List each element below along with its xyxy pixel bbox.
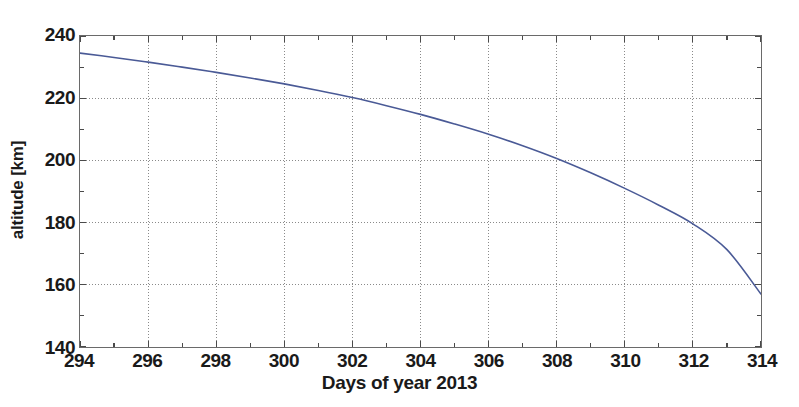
xtick-label: 314: [732, 350, 792, 372]
xtick-label: 300: [254, 350, 314, 372]
y-axis-title: altitude [km]: [8, 110, 28, 270]
xtick-label: 298: [186, 350, 246, 372]
ytick-label: 220: [15, 87, 75, 109]
chart-figure: 240 220 200 180 160 140 294 296 298 300 …: [0, 0, 799, 407]
xtick-label: 304: [391, 350, 451, 372]
xtick-label: 294: [49, 350, 109, 372]
x-axis-title: Days of year 2013: [0, 372, 799, 394]
xtick-label: 302: [322, 350, 382, 372]
data-series-altitude: [80, 36, 761, 347]
plot-area: [79, 35, 762, 348]
ytick-label: 160: [15, 274, 75, 296]
xtick-label: 306: [459, 350, 519, 372]
xtick-label: 296: [117, 350, 177, 372]
xtick-label: 312: [664, 350, 724, 372]
xtick-label: 308: [527, 350, 587, 372]
xtick-label: 310: [595, 350, 655, 372]
ytick-label: 240: [15, 24, 75, 46]
